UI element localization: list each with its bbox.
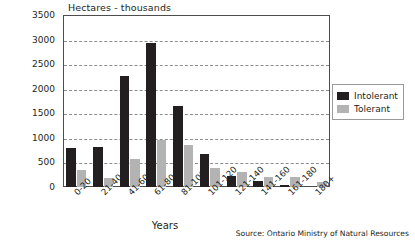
y-tick-label: 2000 bbox=[32, 84, 55, 94]
legend-swatch-icon bbox=[337, 92, 349, 100]
y-tick-label: 3500 bbox=[32, 10, 55, 20]
gridline bbox=[64, 90, 329, 91]
legend-swatch-icon bbox=[337, 105, 349, 113]
legend-item-intolerant: Intolerant bbox=[337, 89, 398, 102]
gridline bbox=[64, 163, 329, 164]
legend-label: Tolerant bbox=[354, 104, 390, 114]
legend-item-tolerant: Tolerant bbox=[337, 102, 398, 115]
y-tick-label: 1500 bbox=[32, 108, 55, 118]
y-tick-label: 500 bbox=[38, 157, 55, 167]
chart-legend: IntolerantTolerant bbox=[332, 84, 404, 120]
gridline bbox=[64, 65, 329, 66]
y-axis: 3500300025002000150010005000 bbox=[0, 15, 60, 187]
source-note: Source: Ontario Ministry of Natural Reso… bbox=[236, 229, 409, 238]
gridlines bbox=[64, 16, 329, 186]
plot-area bbox=[63, 15, 330, 187]
y-tick-label: 0 bbox=[49, 182, 55, 192]
gridline bbox=[64, 114, 329, 115]
bar-chart: Hectares - thousands 3500300025002000150… bbox=[0, 0, 415, 242]
y-tick-label: 1000 bbox=[32, 133, 55, 143]
gridline bbox=[64, 41, 329, 42]
y-tick-label: 2500 bbox=[32, 59, 55, 69]
y-tick-label: 3000 bbox=[32, 35, 55, 45]
x-axis: 0-2021-4041-6061-8081-100101-120121-1401… bbox=[63, 187, 330, 221]
gridline bbox=[64, 139, 329, 140]
chart-title: Hectares - thousands bbox=[68, 2, 171, 13]
legend-label: Intolerant bbox=[354, 91, 398, 101]
